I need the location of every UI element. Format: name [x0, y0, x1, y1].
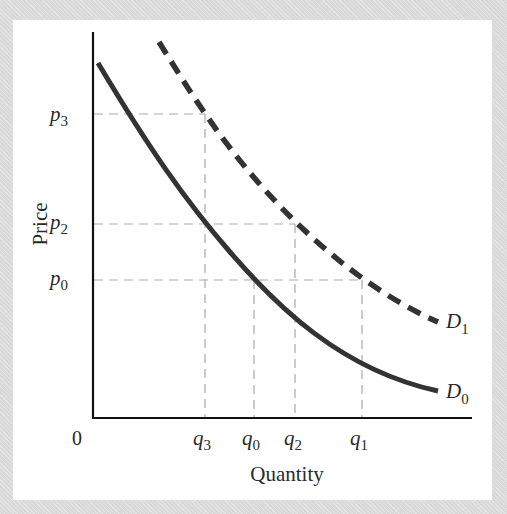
- y-axis-title: Price: [28, 202, 52, 245]
- q2-label: q2: [284, 426, 302, 453]
- origin-label: 0: [72, 427, 82, 449]
- q1-label: q1: [350, 426, 368, 453]
- d1-label: D1: [445, 309, 469, 337]
- guide-lines: [94, 114, 362, 417]
- q3-label: q3: [193, 426, 211, 453]
- p3-label: p3: [48, 102, 68, 129]
- p0-label: p0: [48, 266, 68, 293]
- q0-label: q0: [242, 426, 260, 453]
- x-axis-title: Quantity: [250, 462, 324, 486]
- demand-shift-diagram: p3 p2 p0 Price 0 q3 q0 q2 q1 Quantity D1…: [0, 0, 507, 514]
- d0-label: D0: [445, 379, 469, 407]
- demand-curve-d0: [98, 63, 438, 391]
- axes: [92, 32, 472, 418]
